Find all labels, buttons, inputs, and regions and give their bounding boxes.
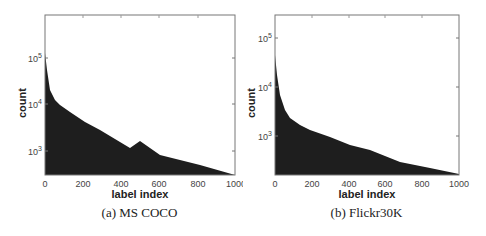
chart-panel-ms-coco: 105 104 103 0 200 400 600 800 1000 count… [0,0,243,236]
y-tick-labels: 105 104 103 [258,32,272,142]
svg-text:104: 104 [258,81,272,93]
chart-panel-flickr30k: 105 104 103 0 200 400 600 800 1000 count… [243,0,486,236]
plot-flickr30k: 105 104 103 0 200 400 600 800 1000 [243,0,486,200]
x-axis-label: label index [275,188,459,200]
y-tick-labels: 105 104 103 [28,52,42,157]
y-axis-label: count [245,78,257,118]
y-axis-label: count [16,78,28,118]
x-axis-label: label index [45,188,235,200]
plot-ms-coco: 105 104 103 0 200 400 600 800 1000 [0,0,243,200]
svg-text:103: 103 [258,130,272,142]
area-fill-flickr30k [275,55,459,175]
svg-text:105: 105 [28,52,42,64]
svg-text:103: 103 [28,145,42,157]
caption-ms-coco: (a) MS COCO [18,205,261,221]
caption-flickr30k: (b) Flickr30K [245,205,486,221]
svg-text:105: 105 [258,32,272,44]
area-fill-ms-coco [45,53,235,175]
svg-text:104: 104 [28,98,42,110]
y-ticks [275,38,459,136]
